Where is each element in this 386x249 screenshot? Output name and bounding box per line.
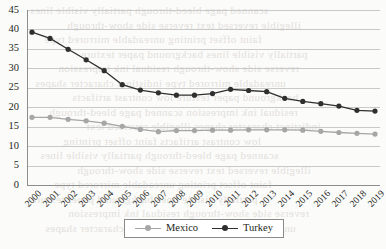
- data-point-mexico-2015: [300, 128, 305, 133]
- data-point-turkey-2019: [372, 109, 377, 114]
- series-line-turkey: [32, 32, 375, 111]
- y-axis-tick-label: 20: [0, 102, 19, 113]
- legend-entry-turkey[interactable]: Turkey: [212, 223, 273, 234]
- legend-marker-turkey-icon: [212, 224, 238, 233]
- y-axis-tick-label: 15: [0, 121, 19, 132]
- data-point-turkey-2012: [246, 88, 251, 93]
- data-point-turkey-2011: [228, 87, 233, 92]
- data-point-turkey-2007: [156, 90, 161, 95]
- chart-legend: MexicoTurkey: [124, 219, 284, 238]
- data-point-mexico-2012: [246, 127, 251, 132]
- data-point-mexico-2008: [174, 128, 179, 133]
- data-point-mexico-2010: [210, 128, 215, 133]
- data-point-turkey-2003: [84, 57, 89, 62]
- data-point-turkey-2015: [300, 99, 305, 104]
- y-axis-tick-label: 35: [0, 43, 19, 54]
- data-point-mexico-2019: [372, 131, 377, 136]
- y-axis-tick-label: 45: [0, 5, 19, 16]
- y-axis-tick-label: 40: [0, 24, 19, 35]
- data-point-mexico-2017: [336, 130, 341, 135]
- series-plot: [27, 10, 380, 185]
- data-point-mexico-2000: [29, 115, 34, 120]
- y-axis-tick-label: 10: [0, 141, 19, 152]
- y-axis-tick-label: 30: [0, 63, 19, 74]
- data-point-mexico-2018: [354, 131, 359, 136]
- legend-entry-mexico[interactable]: Mexico: [135, 223, 198, 234]
- data-point-turkey-2017: [336, 103, 341, 108]
- data-point-turkey-2000: [29, 30, 34, 35]
- data-point-mexico-2004: [102, 121, 107, 126]
- data-point-mexico-2003: [84, 118, 89, 123]
- data-point-mexico-2016: [318, 129, 323, 134]
- data-point-turkey-2006: [138, 88, 143, 93]
- data-point-mexico-2002: [66, 117, 71, 122]
- plot-area: 051015202530354045: [27, 10, 380, 185]
- data-point-mexico-2011: [228, 128, 233, 133]
- data-point-turkey-2009: [192, 93, 197, 98]
- data-point-mexico-2007: [156, 129, 161, 134]
- legend-label: Mexico: [166, 223, 198, 234]
- data-point-turkey-2004: [102, 68, 107, 73]
- series-line-mexico: [32, 117, 375, 134]
- legend-marker-mexico-icon: [135, 224, 161, 233]
- legend-label: Turkey: [243, 223, 273, 234]
- line-chart: 051015202530354045 200020012002200320042…: [0, 0, 386, 249]
- data-point-turkey-2018: [354, 108, 359, 113]
- data-point-turkey-2002: [66, 47, 71, 52]
- data-point-turkey-2001: [47, 36, 52, 41]
- y-axis-tick-label: 5: [0, 160, 19, 171]
- x-axis-line: [27, 185, 380, 186]
- data-point-turkey-2013: [264, 89, 269, 94]
- y-axis-tick-label: 0: [0, 180, 19, 191]
- data-point-turkey-2014: [282, 96, 287, 101]
- data-point-turkey-2010: [210, 91, 215, 96]
- data-point-mexico-2014: [282, 127, 287, 132]
- data-point-mexico-2006: [138, 127, 143, 132]
- data-point-mexico-2005: [120, 124, 125, 129]
- data-point-turkey-2005: [120, 82, 125, 87]
- data-point-turkey-2016: [318, 101, 323, 106]
- data-point-mexico-2001: [47, 115, 52, 120]
- y-axis-tick-label: 25: [0, 82, 19, 93]
- data-point-mexico-2009: [192, 128, 197, 133]
- data-point-mexico-2013: [264, 127, 269, 132]
- data-point-turkey-2008: [174, 93, 179, 98]
